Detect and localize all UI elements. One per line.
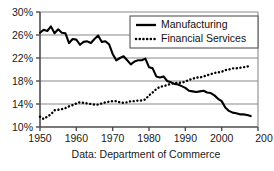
- x-tick-label-1980: 1980: [137, 132, 161, 144]
- legend-label-manufacturing: Manufacturing: [161, 18, 228, 30]
- y-tick-label-14: 14%: [12, 98, 33, 110]
- x-tick-label-2000: 2000: [210, 132, 234, 144]
- line-chart: 10%14%18%22%26%30% 195019601970198019902…: [0, 0, 274, 171]
- chart-legend[interactable]: Manufacturing Financial Services: [130, 16, 258, 48]
- x-tick-label-1990: 1990: [174, 132, 198, 144]
- y-tick-label-26: 26%: [12, 29, 33, 41]
- y-tick-label-22: 22%: [12, 52, 33, 64]
- x-tick-label-1960: 1960: [65, 132, 89, 144]
- legend-label-financial-services: Financial Services: [161, 32, 246, 44]
- y-tick-label-10: 10%: [12, 121, 33, 133]
- y-tick-label-18: 18%: [12, 75, 33, 87]
- y-tick-label-30: 30%: [12, 6, 33, 18]
- chart-figure: 10%14%18%22%26%30% 195019601970198019902…: [0, 0, 274, 171]
- x-tick-label-1970: 1970: [101, 132, 125, 144]
- chart-caption: Data: Department of Commerce: [72, 148, 221, 160]
- x-tick-label-2010: 200: [255, 132, 273, 144]
- x-tick-label-1950: 1950: [28, 132, 52, 144]
